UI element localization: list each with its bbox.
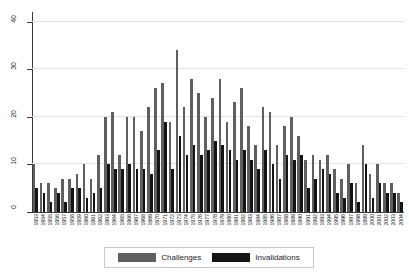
bar-invalidations <box>350 183 353 212</box>
bar-invalidations <box>243 150 246 212</box>
x-tick-label: 1985 <box>262 214 268 226</box>
bar-invalidations <box>143 169 146 212</box>
legend-item-invalidations: Invalidations <box>212 253 299 262</box>
x-tick-label: 2001 <box>376 214 382 226</box>
bar-group <box>104 12 111 212</box>
chart-legend: Challenges Invalidations <box>104 247 314 268</box>
bar-group <box>140 12 147 212</box>
x-tick-label: 1973 <box>176 214 182 226</box>
x-tick-label: 1967 <box>133 214 139 226</box>
bar-invalidations <box>50 202 53 212</box>
x-tick-label: 1979 <box>219 214 225 226</box>
y-tick-label-10: 10 <box>10 157 26 165</box>
bar-invalidations <box>236 160 239 212</box>
bar-invalidations <box>114 169 117 212</box>
bar-invalidations <box>279 179 282 212</box>
x-tick-label: 1995 <box>333 214 339 226</box>
bar-invalidations <box>157 150 160 212</box>
bar-invalidations <box>93 193 96 212</box>
x-tick-label: 1959 <box>76 214 82 226</box>
bar-series-area <box>32 12 404 212</box>
x-tick-label: 2004 <box>398 214 404 226</box>
bar-group <box>61 12 68 212</box>
x-tick-label: 1960 <box>83 214 89 226</box>
x-tick-label: 1976 <box>197 214 203 226</box>
x-tick-label: 1989 <box>290 214 296 226</box>
x-tick-label: 1981 <box>233 214 239 226</box>
bar-group <box>319 12 326 212</box>
bar-group <box>40 12 47 212</box>
x-tick-label: 1988 <box>283 214 289 226</box>
y-tick-label-0: 0 <box>10 205 26 209</box>
bar-group <box>312 12 319 212</box>
bar-invalidations <box>136 169 139 212</box>
x-tick-label: 1962 <box>97 214 103 226</box>
bar-invalidations <box>57 193 60 212</box>
legend-item-challenges: Challenges <box>118 253 201 262</box>
bar-group <box>297 12 304 212</box>
x-tick-label: 1980 <box>226 214 232 226</box>
y-tick-label-30: 30 <box>10 62 26 70</box>
bar-invalidations <box>264 150 267 212</box>
bar-group <box>118 12 125 212</box>
y-tick-label-40: 40 <box>10 15 26 23</box>
bar-group <box>54 12 61 212</box>
x-tick-label: 1971 <box>162 214 168 226</box>
bar-group <box>126 12 133 212</box>
bar-invalidations <box>357 202 360 212</box>
bar-group <box>83 12 90 212</box>
bar-invalidations <box>229 150 232 212</box>
x-tick-label: 1969 <box>147 214 153 226</box>
bar-group <box>68 12 75 212</box>
bar-invalidations <box>121 169 124 212</box>
bar-group <box>355 12 362 212</box>
bar-invalidations <box>336 193 339 212</box>
bar-invalidations <box>43 193 46 212</box>
x-tick-label: 1994 <box>326 214 332 226</box>
bar-invalidations <box>343 198 346 212</box>
bar-invalidations <box>221 145 224 212</box>
x-tick-label: 1958 <box>69 214 75 226</box>
bar-group <box>133 12 140 212</box>
x-tick-label: 1991 <box>305 214 311 226</box>
x-tick-label: 2003 <box>390 214 396 226</box>
bar-group <box>90 12 97 212</box>
bar-invalidations <box>314 179 317 212</box>
bar-group <box>76 12 83 212</box>
y-tick-label-20: 20 <box>10 110 26 118</box>
x-tick-label: 1977 <box>204 214 210 226</box>
bar-group <box>347 12 354 212</box>
bar-invalidations <box>329 174 332 212</box>
x-tick-label: 1987 <box>276 214 282 226</box>
bar-invalidations <box>78 188 81 212</box>
x-axis-labels: 1953195419551956195719581959196019611962… <box>32 214 404 248</box>
x-tick-label: 1968 <box>140 214 146 226</box>
x-tick-label: 2000 <box>369 214 375 226</box>
bar-invalidations <box>272 164 275 212</box>
x-tick-label: 1956 <box>54 214 60 226</box>
bar-invalidations <box>379 183 382 212</box>
bar-invalidations <box>128 164 131 212</box>
x-tick-label: 1970 <box>154 214 160 226</box>
bar-group <box>204 12 211 212</box>
bar-invalidations <box>372 198 375 212</box>
x-tick-label: 1986 <box>269 214 275 226</box>
bar-group <box>247 12 254 212</box>
bar-chart: 010203040 195319541955195619571958195919… <box>0 0 409 272</box>
bar-group <box>97 12 104 212</box>
bar-group <box>397 12 404 212</box>
x-tick-label: 1972 <box>169 214 175 226</box>
bar-group <box>362 12 369 212</box>
bar-invalidations <box>386 193 389 212</box>
bar-group <box>283 12 290 212</box>
bar-invalidations <box>200 155 203 212</box>
x-tick-label: 1993 <box>319 214 325 226</box>
bar-invalidations <box>257 169 260 212</box>
bar-invalidations <box>400 202 403 212</box>
bar-group <box>340 12 347 212</box>
bar-invalidations <box>293 160 296 212</box>
bar-group <box>233 12 240 212</box>
bar-invalidations <box>250 160 253 212</box>
bar-invalidations <box>150 174 153 212</box>
bar-group <box>169 12 176 212</box>
